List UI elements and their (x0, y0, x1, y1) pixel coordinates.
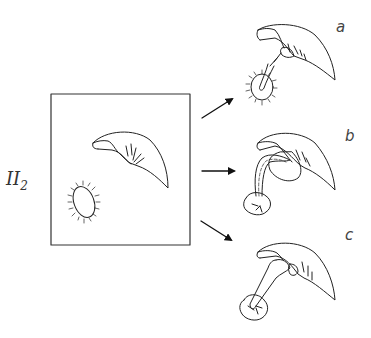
arrow-to-a (202, 99, 232, 118)
panel-c-drawing (240, 243, 335, 320)
arrow-to-c (201, 221, 231, 240)
main-hairy-oval (68, 181, 100, 223)
main-shell-shape (93, 132, 168, 188)
main-frame (51, 94, 190, 245)
panel-a-drawing (246, 25, 335, 105)
diagram-canvas (0, 0, 371, 338)
panel-b-drawing (244, 133, 335, 215)
